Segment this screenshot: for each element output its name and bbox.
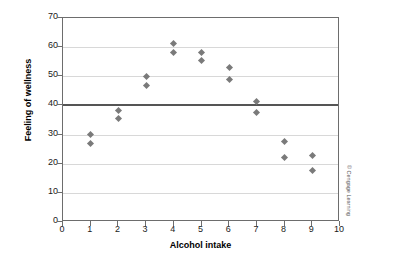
data-point	[281, 138, 288, 145]
gridline	[63, 76, 338, 77]
x-axis-tick-mark	[173, 221, 174, 226]
x-axis-tick-mark	[311, 221, 312, 226]
x-axis-tick-mark	[339, 221, 340, 226]
x-axis-tick-mark	[228, 221, 229, 226]
x-axis-tick-mark	[284, 221, 285, 226]
data-point	[309, 152, 316, 159]
data-point	[115, 107, 122, 114]
y-axis-tick-label: 10	[32, 186, 58, 196]
data-point	[281, 154, 288, 161]
data-point	[87, 140, 94, 147]
gridline	[63, 135, 338, 136]
data-point	[143, 73, 150, 80]
plot-area	[62, 17, 339, 221]
y-axis-tick-label: 40	[32, 98, 58, 108]
gridline	[63, 164, 338, 165]
gridline	[63, 193, 338, 194]
data-point	[170, 49, 177, 56]
y-axis-tick-label: 60	[32, 40, 58, 50]
data-point	[170, 40, 177, 47]
x-axis-tick-mark	[117, 221, 118, 226]
data-point	[87, 131, 94, 138]
x-axis-tick-mark	[62, 221, 63, 226]
y-axis-tick-label: 30	[32, 128, 58, 138]
data-point	[143, 82, 150, 89]
data-point	[198, 49, 205, 56]
y-axis-tick-label: 50	[32, 69, 58, 79]
copyright-credit: © Cengage Learning	[346, 165, 352, 255]
data-point	[309, 167, 316, 174]
data-point	[198, 57, 205, 64]
x-axis-tick-mark	[201, 221, 202, 226]
x-axis-tick-mark	[145, 221, 146, 226]
y-axis-tick-label: 20	[32, 157, 58, 167]
y-axis-tick-label: 70	[32, 11, 58, 21]
data-point	[115, 115, 122, 122]
x-axis-tick-mark	[256, 221, 257, 226]
reference-line	[63, 104, 338, 106]
x-axis-tick-mark	[90, 221, 91, 226]
data-point	[253, 109, 260, 116]
data-point	[226, 64, 233, 71]
x-axis-title: Alcohol intake	[62, 240, 339, 250]
scatter-plot-figure: Feeling of wellness 010203040506070 0123…	[0, 0, 401, 266]
